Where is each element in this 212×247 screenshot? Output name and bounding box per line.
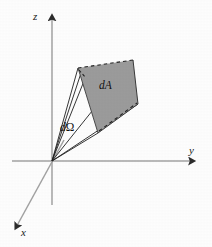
ray-edge-left <box>52 76 86 161</box>
area-element-label: dA <box>99 80 112 92</box>
x-axis-label: x <box>21 227 26 238</box>
ray-to-top-left-inner <box>52 70 82 161</box>
figure-canvas <box>0 0 212 247</box>
x-axis <box>17 140 65 227</box>
y-axis-label: y <box>189 145 194 156</box>
x-axis-line <box>17 140 65 227</box>
z-axis-label: z <box>33 11 37 22</box>
solid-angle-label: dΩ <box>60 122 74 134</box>
solid-angle-label-symbol: Ω <box>66 121 75 133</box>
area-element-label-symbol: A <box>105 79 112 91</box>
solid-angle-figure: z y x dA dΩ <box>0 0 212 247</box>
area-element-patch <box>78 60 138 133</box>
